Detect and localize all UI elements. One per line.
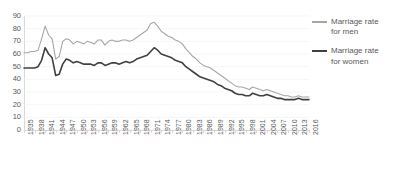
x-tick-mark: [214, 130, 215, 133]
legend-label: Marriage rate for women: [331, 46, 389, 66]
x-tick-mark: [151, 130, 152, 133]
x-tick-label: 1980: [185, 119, 192, 135]
x-tick-label: 1956: [101, 119, 108, 135]
x-tick-label: 2010: [291, 119, 298, 135]
x-tick-label: 2007: [280, 119, 287, 135]
x-tick-mark: [108, 130, 109, 133]
x-tick-mark: [140, 130, 141, 133]
x-tick-label: 1965: [133, 119, 140, 135]
x-tick-mark: [298, 130, 299, 133]
x-tick-label: 1974: [164, 119, 171, 135]
x-tick-label: 1998: [249, 119, 256, 135]
x-tick-label: 1962: [122, 119, 129, 135]
x-tick-mark: [203, 130, 204, 133]
x-tick-label: 1935: [27, 119, 34, 135]
x-tick-mark: [235, 130, 236, 133]
x-tick-mark: [172, 130, 173, 133]
legend-item: Marriage rate for men: [312, 17, 397, 37]
x-tick-mark: [77, 130, 78, 133]
x-tick-mark: [119, 130, 120, 133]
x-tick-mark: [130, 130, 131, 133]
x-tick-mark: [35, 130, 36, 133]
x-tick-label: 1938: [38, 119, 45, 135]
x-tick-label: 2001: [259, 119, 266, 135]
x-tick-mark: [193, 130, 194, 133]
x-tick-mark: [225, 130, 226, 133]
x-tick-label: 1977: [175, 119, 182, 135]
legend-line-swatch: [312, 21, 327, 23]
x-tick-label: 1953: [90, 119, 97, 135]
x-tick-mark: [98, 130, 99, 133]
x-tick-mark: [182, 130, 183, 133]
x-tick-label: 1944: [59, 119, 66, 135]
x-tick-label: 2016: [312, 119, 319, 135]
legend-label: Marriage rate for men: [331, 17, 389, 37]
x-tick-label: 1992: [228, 119, 235, 135]
x-tick-mark: [277, 130, 278, 133]
x-tick-mark: [87, 130, 88, 133]
x-tick-label: 1941: [48, 119, 55, 135]
x-tick-mark: [161, 130, 162, 133]
x-tick-label: 1968: [143, 119, 150, 135]
x-tick-mark: [56, 130, 57, 133]
x-tick-label: 2004: [270, 119, 277, 135]
x-tick-mark: [45, 130, 46, 133]
x-tick-label: 1971: [154, 119, 161, 135]
x-tick-mark: [246, 130, 247, 133]
x-tick-label: 1947: [69, 119, 76, 135]
x-tick-label: 1986: [206, 119, 213, 135]
legend-item: Marriage rate for women: [312, 46, 397, 66]
x-tick-label: 1989: [217, 119, 224, 135]
x-tick-mark: [256, 130, 257, 133]
x-tick-label: 1995: [238, 119, 245, 135]
line-chart: 0102030405060708090 19351938194119441947…: [0, 0, 397, 185]
x-tick-label: 1983: [196, 119, 203, 135]
x-tick-mark: [288, 130, 289, 133]
x-tick-mark: [309, 130, 310, 133]
x-tick-mark: [24, 130, 25, 133]
x-tick-label: 2013: [301, 119, 308, 135]
legend-line-swatch: [312, 50, 327, 52]
x-tick-label: 1959: [111, 119, 118, 135]
chart-legend: Marriage rate for menMarriage rate for w…: [312, 17, 397, 76]
x-tick-label: 1950: [80, 119, 87, 135]
x-tick-mark: [66, 130, 67, 133]
x-tick-mark: [267, 130, 268, 133]
